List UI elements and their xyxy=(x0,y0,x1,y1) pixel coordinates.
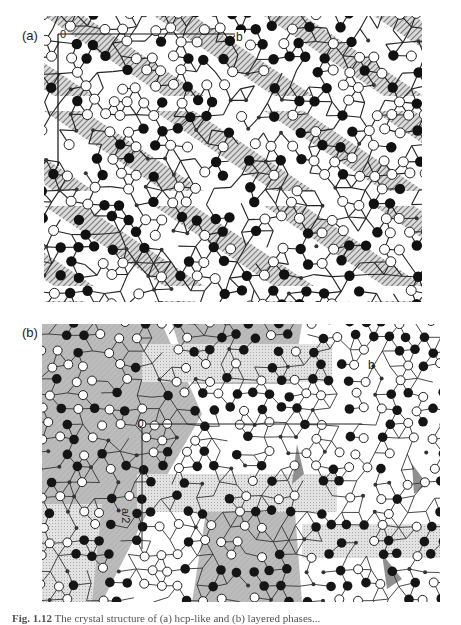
panel-b-label: (b) xyxy=(22,325,38,340)
figure-caption-text: The crystal structure of (a) hcp-like an… xyxy=(55,612,321,624)
crystal-structure-b-graphic xyxy=(42,324,440,602)
figure-number: Fig. 1.12 xyxy=(12,612,52,624)
panel-b-a-half-axis-label: a/2 xyxy=(120,508,132,523)
figure-caption: Fig. 1.12 The crystal structure of (a) h… xyxy=(12,612,452,625)
panel-b-structure-figure xyxy=(42,324,440,602)
panel-b-b-axis-label: b xyxy=(368,358,375,372)
panel-a-origin-label: 0 xyxy=(60,28,66,40)
panel-a-label: (a) xyxy=(22,28,38,43)
crystal-structure-a-graphic xyxy=(44,16,422,302)
panel-b-origin-label: 0 xyxy=(138,418,144,429)
panel-a-b-axis-label: b xyxy=(235,30,244,44)
panel-a-structure-figure xyxy=(44,16,422,302)
